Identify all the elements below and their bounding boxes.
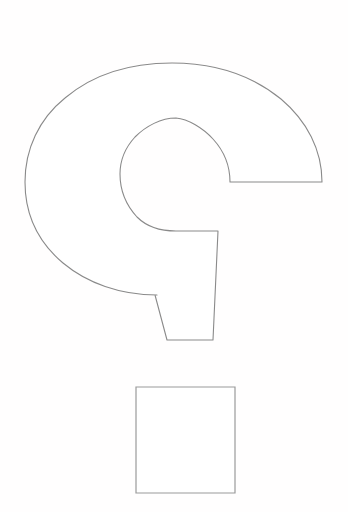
question-mark-artwork [0, 0, 348, 512]
page-canvas [0, 0, 348, 512]
question-mark-dot-square [136, 387, 235, 493]
